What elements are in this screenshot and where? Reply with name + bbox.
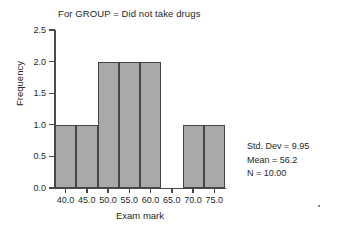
y-axis-tick-label: 2.0 bbox=[33, 57, 46, 67]
x-axis-tick bbox=[192, 188, 193, 193]
x-axis-title: Exam mark bbox=[55, 210, 225, 221]
x-axis-tick-label: 70.0 bbox=[184, 195, 202, 205]
x-axis-tick-label: 45.0 bbox=[78, 195, 96, 205]
x-axis-tick bbox=[150, 188, 151, 193]
x-axis-tick bbox=[129, 188, 130, 193]
x-axis-tick-label: 40.0 bbox=[57, 195, 75, 205]
y-axis-tick-label: 1.0 bbox=[33, 120, 46, 130]
x-axis-tick-label: 75.0 bbox=[206, 195, 224, 205]
y-axis-title: Frequency bbox=[14, 44, 25, 124]
histogram-bar bbox=[98, 62, 119, 188]
histogram-chart: For GROUP = Did not take drugs 0.00.51.0… bbox=[0, 0, 338, 232]
n-text: N = 10.00 bbox=[247, 167, 309, 181]
y-axis-tick-label: 1.5 bbox=[33, 88, 46, 98]
x-axis-tick-label: 55.0 bbox=[121, 195, 139, 205]
histogram-bar bbox=[76, 125, 97, 188]
chart-title: For GROUP = Did not take drugs bbox=[58, 8, 200, 19]
statistics-annotation: Std. Dev = 9.95 Mean = 56.2 N = 10.00 bbox=[247, 140, 309, 181]
histogram-bar bbox=[140, 62, 161, 188]
histogram-bar bbox=[183, 125, 204, 188]
x-axis-tick bbox=[86, 188, 87, 193]
mean-text: Mean = 56.2 bbox=[247, 154, 309, 168]
plot-area bbox=[55, 30, 225, 188]
x-axis-tick-label: 65.0 bbox=[163, 195, 181, 205]
x-axis-tick bbox=[171, 188, 172, 193]
y-axis-tick-label: 0.0 bbox=[33, 183, 46, 193]
y-axis-tick-label: 2.5 bbox=[33, 25, 46, 35]
x-axis-tick bbox=[65, 188, 66, 193]
x-axis-tick bbox=[214, 188, 215, 193]
x-axis-tick-label: 50.0 bbox=[99, 195, 117, 205]
histogram-bar bbox=[204, 125, 225, 188]
stray-mark bbox=[318, 205, 320, 207]
y-axis-tick-label: 0.5 bbox=[33, 151, 46, 161]
x-axis-tick-label: 60.0 bbox=[142, 195, 160, 205]
histogram-bar bbox=[55, 125, 76, 188]
x-axis-tick bbox=[107, 188, 108, 193]
std-dev-text: Std. Dev = 9.95 bbox=[247, 140, 309, 154]
histogram-bar bbox=[119, 62, 140, 188]
